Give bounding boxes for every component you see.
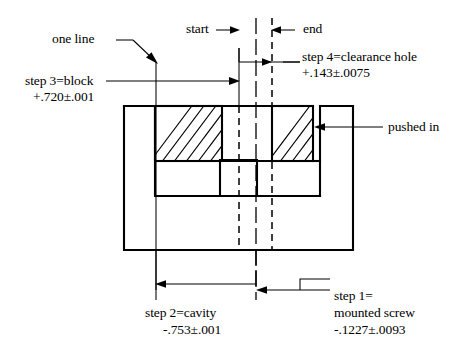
step1-label-line3: -.1227±.0093 bbox=[334, 322, 405, 338]
step4-label-line1: step 4=clearance hole bbox=[302, 49, 417, 65]
hatched-block-right bbox=[272, 106, 313, 161]
pushed-in-label: pushed in bbox=[388, 119, 439, 135]
step3-label-line1: step 3=block bbox=[25, 73, 93, 89]
hatched-block-left bbox=[155, 106, 222, 161]
step2-label-line2: -.753±.001 bbox=[163, 322, 221, 338]
step1-label-leader bbox=[300, 279, 330, 290]
step2-label-line1: step 2=cavity bbox=[145, 305, 216, 321]
step1-label-line1: step 1= bbox=[334, 288, 373, 304]
start-label: start bbox=[186, 21, 209, 37]
one-line-label: one line bbox=[52, 31, 94, 47]
tolerance-stack-diagram: one line start end step 4=clearance hole… bbox=[0, 0, 463, 354]
step1-arrowhead bbox=[256, 286, 267, 294]
step3-arrowhead bbox=[229, 77, 240, 85]
step4-arrowhead bbox=[262, 58, 272, 66]
step3-label-line2: +.720±.001 bbox=[33, 89, 94, 105]
end-label: end bbox=[303, 21, 322, 37]
step2-arrowhead bbox=[155, 280, 166, 288]
step1-label-line2: mounted screw bbox=[334, 305, 415, 321]
step4-label-line2: +.143±.0075 bbox=[302, 65, 370, 81]
start-arrowhead bbox=[230, 26, 240, 34]
